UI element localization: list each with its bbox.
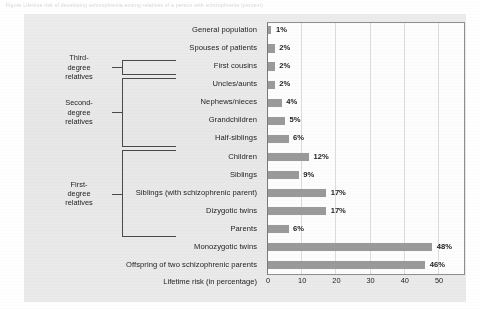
group-bracket <box>122 60 176 75</box>
group-bracket <box>122 150 176 237</box>
bar-value-label: 6% <box>293 221 304 238</box>
bar-value-label: 48% <box>437 239 452 256</box>
group-label-third-degree: Third-degreerelatives <box>48 53 110 81</box>
x-axis: Lifetime risk (in percentage) 0102030405… <box>0 275 480 293</box>
bar <box>268 135 289 143</box>
x-tick-label: 0 <box>266 276 270 285</box>
bar-row-label: Monozygotic twins <box>194 239 257 256</box>
bar-row-label: Uncles/aunts <box>213 76 258 93</box>
bar-row-label: Spouses of patients <box>189 40 257 57</box>
bar-row: Parents6% <box>0 221 480 238</box>
bar-row-label: Parents <box>230 221 257 238</box>
bar-row-label: Siblings <box>230 167 257 184</box>
bar-row-label: Dizygotic twins <box>206 203 257 220</box>
bar-value-label: 2% <box>279 58 290 75</box>
bar <box>268 225 289 233</box>
bar <box>268 117 285 125</box>
bar-value-label: 2% <box>279 40 290 57</box>
figure-root: Figure Lifetime risk of developing schiz… <box>0 0 480 309</box>
bar-value-label: 12% <box>314 149 329 166</box>
bar-value-label: 17% <box>331 185 346 202</box>
group-bracket-stem <box>112 194 122 195</box>
group-label-first-degree: First-degreerelatives <box>48 180 110 208</box>
bar <box>268 26 271 34</box>
group-label-line: Third- <box>48 53 110 62</box>
x-tick-label: 50 <box>435 276 443 285</box>
bar <box>268 207 326 215</box>
bar <box>268 44 275 52</box>
bar <box>268 171 299 179</box>
bar-value-label: 46% <box>430 257 445 274</box>
bar-row: Children12% <box>0 149 480 166</box>
bar-row-label: Grandchildren <box>209 112 257 129</box>
figure-caption-top: Figure Lifetime risk of developing schiz… <box>6 1 474 10</box>
bar-value-label: 9% <box>303 167 314 184</box>
bar <box>268 261 425 269</box>
group-label-line: relatives <box>48 117 110 126</box>
x-tick-label: 10 <box>298 276 306 285</box>
bar-row-label: Nephews/nieces <box>201 94 257 111</box>
group-label-line: relatives <box>48 198 110 207</box>
group-label-line: Second- <box>48 98 110 107</box>
bar-value-label: 1% <box>276 22 287 39</box>
group-label-line: degree <box>48 189 110 198</box>
bar-value-label: 6% <box>293 130 304 147</box>
bar <box>268 153 309 161</box>
bar-row-label: General population <box>192 22 257 39</box>
x-tick-label: 20 <box>332 276 340 285</box>
group-bracket <box>122 78 176 147</box>
bar-row-label: Children <box>228 149 257 166</box>
x-axis-title: Lifetime risk (in percentage) <box>163 275 257 289</box>
bar-value-label: 4% <box>286 94 297 111</box>
bar-row: Half-siblings6% <box>0 130 480 147</box>
bar-value-label: 17% <box>331 203 346 220</box>
group-bracket-stem <box>112 67 122 68</box>
group-label-second-degree: Second-degreerelatives <box>48 98 110 126</box>
bar <box>268 62 275 70</box>
group-label-line: First- <box>48 180 110 189</box>
bar-row-label: Offspring of two schizophrenic parents <box>126 257 257 274</box>
bar-value-label: 5% <box>290 112 301 129</box>
bar-row: General population1% <box>0 22 480 39</box>
bar-row-label: Half-siblings <box>215 130 257 147</box>
bar-row: Offspring of two schizophrenic parents46… <box>0 257 480 274</box>
group-bracket-stem <box>112 112 122 113</box>
bar <box>268 99 282 107</box>
bar <box>268 81 275 89</box>
group-label-line: relatives <box>48 72 110 81</box>
bar-row: Monozygotic twins48% <box>0 239 480 256</box>
group-label-line: degree <box>48 108 110 117</box>
x-tick-label: 40 <box>401 276 409 285</box>
x-tick-label: 30 <box>367 276 375 285</box>
group-label-line: degree <box>48 63 110 72</box>
bar <box>268 243 432 251</box>
bar <box>268 189 326 197</box>
bar-row-label: First cousins <box>214 58 257 75</box>
bar-value-label: 2% <box>279 76 290 93</box>
